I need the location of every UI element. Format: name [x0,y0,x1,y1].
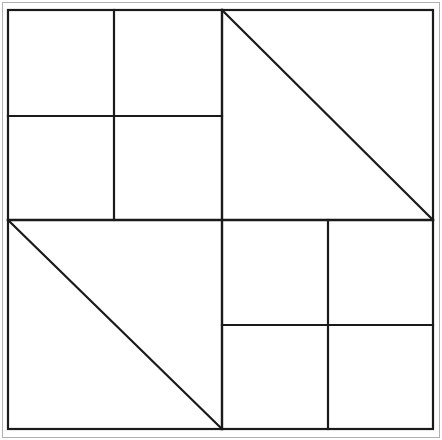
figure-canvas [0,0,442,440]
geometric-figure [0,0,442,440]
